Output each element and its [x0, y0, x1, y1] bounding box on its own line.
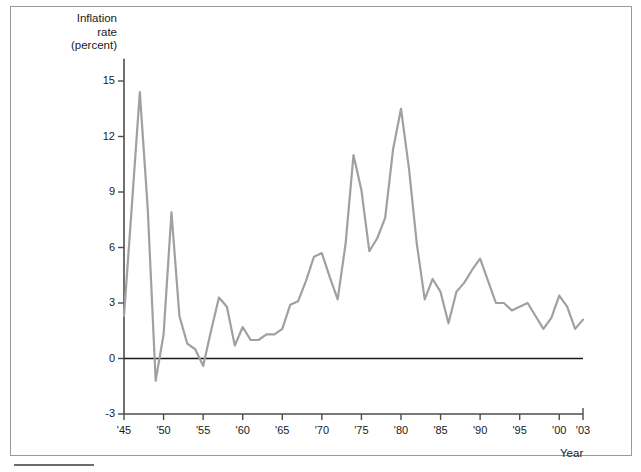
y-axis-title-line: rate: [47, 26, 117, 40]
x-tick-label: '80: [381, 424, 421, 436]
x-tick-label: '65: [262, 424, 302, 436]
x-tick-label: '90: [460, 424, 500, 436]
x-axis-title: Year: [560, 447, 620, 461]
source-note-rule: [14, 464, 94, 466]
y-tick-label: 12: [75, 130, 115, 142]
inflation-line-chart: [0, 0, 641, 472]
x-tick-label: '60: [223, 424, 263, 436]
x-tick-label: '45: [104, 424, 144, 436]
x-tick-label: '95: [500, 424, 540, 436]
x-tick-label: '55: [183, 424, 223, 436]
inflation-series-line: [124, 92, 583, 381]
x-tick-label: '75: [341, 424, 381, 436]
y-axis-title-line: Inflation: [47, 12, 117, 26]
y-axis-title: Inflationrate(percent): [47, 12, 117, 53]
y-tick-label: -3: [75, 407, 115, 419]
figure-root: Inflationrate(percent) Year 15129630-3'4…: [0, 0, 641, 472]
x-tick-label: '03: [563, 424, 603, 436]
y-tick-label: 9: [75, 185, 115, 197]
y-axis-title-line: (percent): [47, 39, 117, 53]
y-tick-label: 6: [75, 241, 115, 253]
x-tick-label: '50: [144, 424, 184, 436]
x-tick-label: '85: [421, 424, 461, 436]
y-tick-label: 0: [75, 352, 115, 364]
x-tick-label: '70: [302, 424, 342, 436]
y-tick-label: 3: [75, 296, 115, 308]
y-tick-label: 15: [75, 74, 115, 86]
